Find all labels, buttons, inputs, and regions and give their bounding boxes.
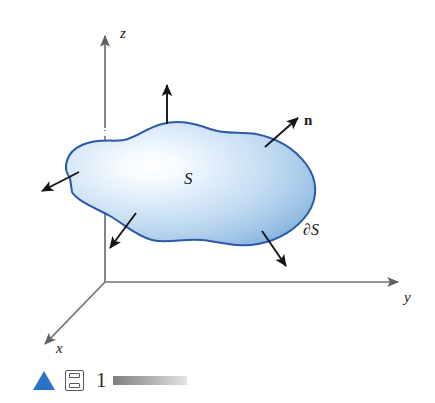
frame-glyph-bottom — [69, 383, 80, 388]
figure-container: z y x S ∂S n 1 — [0, 0, 435, 403]
frame-glyph-top — [69, 373, 80, 378]
frame-number: 1 — [96, 368, 107, 393]
boundary-label-dS: ∂S — [303, 222, 319, 238]
surface-label-S: S — [184, 170, 193, 187]
x-axis-line — [45, 282, 105, 344]
y-axis-label: y — [404, 290, 411, 305]
timeline-scrubber[interactable] — [113, 376, 187, 385]
media-control-bar: 1 — [0, 357, 435, 403]
play-icon[interactable] — [33, 371, 55, 390]
frame-stack-icon[interactable] — [65, 370, 84, 391]
surface-diagram — [0, 0, 435, 403]
z-axis-label: z — [120, 26, 126, 41]
normal-vector-label-n: n — [304, 113, 312, 128]
x-axis-label: x — [56, 341, 63, 356]
